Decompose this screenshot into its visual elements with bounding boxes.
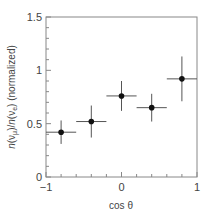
y-axis-label: n(νμ)/n(νe) (normalized) — [6, 45, 19, 149]
svg-text:n(νμ)/n(νe) (normalized): n(νμ)/n(νe) (normalized) — [6, 45, 19, 149]
y-ticks: 00.511.5 — [27, 11, 51, 183]
x-tick-label: 0 — [118, 181, 124, 193]
data-point — [137, 94, 167, 122]
data-point — [76, 106, 106, 138]
point-marker — [58, 129, 64, 135]
data-point — [106, 81, 136, 111]
y-tick-label: 0 — [36, 171, 42, 183]
y-tick-label: 1 — [36, 64, 42, 76]
chart: −101 00.511.5 cos θ n(νμ)/n(νe) (normali… — [0, 0, 211, 218]
point-marker — [89, 119, 95, 125]
data-series — [46, 56, 197, 143]
data-point — [167, 56, 197, 101]
y-tick-label: 0.5 — [27, 118, 42, 130]
point-marker — [179, 76, 185, 82]
x-tick-label: 1 — [194, 181, 200, 193]
point-marker — [119, 93, 125, 99]
x-axis-label: cos θ — [109, 200, 133, 211]
y-tick-label: 1.5 — [27, 11, 42, 23]
point-marker — [149, 105, 155, 111]
x-ticks: −101 — [40, 172, 200, 193]
